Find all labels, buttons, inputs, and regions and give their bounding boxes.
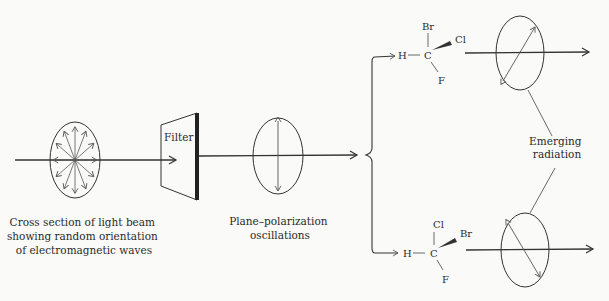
molecule-bottom: H C Cl Br F	[403, 219, 472, 285]
atom-wedge: Cl	[455, 34, 466, 45]
atom-h: H	[398, 50, 407, 61]
atom-c: C	[424, 50, 432, 61]
cross-section-caption: Cross section of light beam showing rand…	[7, 216, 161, 256]
polarizing-filter	[161, 113, 197, 200]
plane-polarization-caption: Plane–polarization oscillations	[229, 215, 331, 241]
atom-down: F	[438, 75, 445, 86]
leader-top	[528, 90, 552, 136]
atom-up: Cl	[433, 219, 444, 230]
atom-wedge: Br	[460, 228, 472, 239]
atom-down: F	[442, 274, 449, 285]
emerging-radiation-label: Emerging radiation	[529, 135, 585, 160]
top-branch-arrow	[375, 56, 395, 57]
filter-label: Filter	[164, 131, 194, 143]
polarimetry-diagram: Filter H C Br Cl F H C Cl Br F	[0, 0, 609, 301]
emerging-beam-top	[465, 52, 589, 53]
leader-bottom	[530, 168, 555, 213]
split-brace	[366, 57, 375, 253]
atom-up: Br	[422, 21, 434, 32]
atom-h: H	[403, 248, 412, 259]
unpolarized-cross-section	[50, 122, 100, 198]
atom-c: C	[430, 248, 438, 259]
molecule-top: H C Br Cl F	[398, 21, 466, 86]
emerging-beam-bottom	[466, 249, 593, 250]
